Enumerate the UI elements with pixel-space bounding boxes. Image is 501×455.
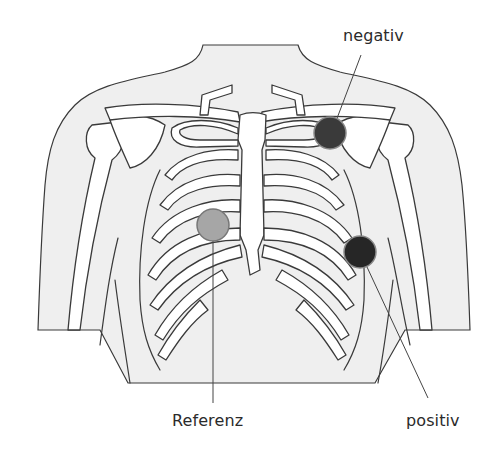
- label-negativ: negativ: [343, 26, 404, 45]
- electrode-positiv: [344, 236, 376, 268]
- label-positiv: positiv: [406, 411, 460, 430]
- chest-diagram: [0, 0, 501, 455]
- electrode-referenz: [197, 209, 229, 241]
- label-referenz: Referenz: [172, 411, 243, 430]
- electrode-negativ: [314, 117, 346, 149]
